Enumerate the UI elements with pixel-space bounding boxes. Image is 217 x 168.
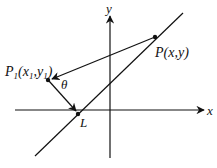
y-axis-label: y (104, 1, 112, 16)
point-p1-label: P1(x1,y1) (4, 64, 53, 81)
vector-p-to-p1 (52, 37, 155, 79)
p1-close: ) (47, 64, 53, 80)
point-p-label-main: P (154, 45, 164, 60)
x-axis-label: x (206, 103, 213, 118)
point-p-label-args: (x,y) (164, 45, 190, 61)
coordinate-diagram: x y P(x,y) P1(x1,y1) θ L (0, 0, 217, 168)
p1-main: P (4, 64, 14, 79)
angle-theta-label: θ (61, 77, 68, 92)
line-l (35, 13, 183, 156)
point-l-label: L (79, 115, 87, 130)
point-p (153, 35, 157, 39)
point-p-label: P(x,y) (154, 45, 189, 61)
